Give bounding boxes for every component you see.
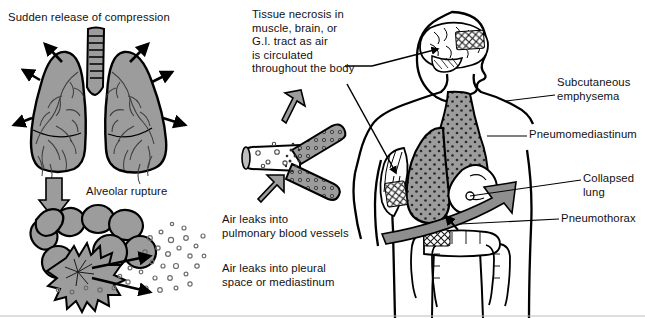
blood-vessel-panel: [242, 90, 345, 202]
right-lung-icon: [105, 52, 166, 184]
leader-subcutaneous-emphysema: [506, 95, 555, 101]
trachea-icon: [87, 28, 104, 96]
arrow-mid-left: [23, 70, 40, 80]
label-pleural-space: Air leaks into pleural space or mediasti…: [222, 262, 335, 289]
label-pneumothorax: Pneumothorax: [561, 212, 636, 226]
diagram-canvas: Sudden release of compression Alveolar r…: [0, 0, 645, 318]
arrow-lower-right: [163, 118, 185, 125]
label-alveolar-rupture: Alveolar rupture: [86, 185, 167, 199]
left-lung-icon: [31, 52, 86, 184]
label-tissue-necrosis: Tissue necrosis in muscle, brain, or G.I…: [252, 8, 354, 76]
label-collapsed-lung: Collapsed lung: [583, 172, 634, 199]
label-pulmonary-vessels: Air leaks into pulmonary blood vessels: [222, 213, 349, 240]
arrow-mid-right: [152, 72, 172, 82]
label-subcutaneous-emphysema: Subcutaneous emphysema: [557, 76, 630, 103]
leader-necrosis-to-arm: [347, 84, 396, 173]
label-sudden-release: Sudden release of compression: [8, 11, 170, 25]
leader-pneumothorax: [460, 219, 559, 224]
arm-muscle-necrosis: [380, 148, 407, 216]
collapsed-lung-region: [407, 128, 450, 223]
human-body-panel: [345, 12, 581, 318]
label-pneumomediastinum: Pneumomediastinum: [529, 128, 637, 142]
arrow-lower-left: [14, 118, 32, 125]
large-intestine-icon: [411, 230, 510, 307]
brain-air-embolism-patch: [455, 30, 484, 50]
alveolar-rupture-panel: [25, 205, 205, 312]
